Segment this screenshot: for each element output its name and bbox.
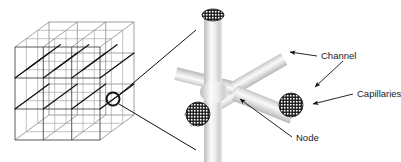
capillary-cap-top xyxy=(202,9,224,21)
figure-canvas: Channel Capillaries Node xyxy=(0,0,401,162)
channel-arrow-upper xyxy=(290,52,317,56)
lattice-bold-diagonals xyxy=(15,45,134,109)
magnify-line-upper xyxy=(119,30,196,95)
cubic-lattice-block xyxy=(15,22,134,140)
capillary-cap-lower-right xyxy=(279,93,303,117)
label-capillaries: Capillaries xyxy=(357,88,401,99)
magnify-line-lower xyxy=(119,104,196,150)
label-node: Node xyxy=(296,132,319,143)
channel-arrow-lower xyxy=(315,61,343,87)
figure-root: Channel Capillaries Node xyxy=(0,0,401,162)
lattice-interior-edges xyxy=(26,30,122,131)
node-body xyxy=(200,81,228,103)
label-channel: Channel xyxy=(321,50,356,61)
lattice-back-edges xyxy=(15,22,134,140)
magnification-leader-lines xyxy=(119,30,196,150)
capillaries-arrow xyxy=(313,94,353,104)
lattice-front-face xyxy=(15,47,100,140)
capillary-cap-lower-left xyxy=(186,102,210,126)
